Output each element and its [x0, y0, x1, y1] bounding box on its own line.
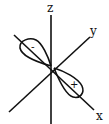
- negative-lobe: [20, 39, 51, 66]
- negative-sign: -: [31, 41, 35, 52]
- p-orbital-diagram: z y x - +: [0, 0, 109, 124]
- y-axis: [9, 37, 90, 112]
- x-axis: [14, 35, 94, 110]
- positive-sign: +: [70, 79, 78, 90]
- positive-lobe: [54, 68, 83, 97]
- y-axis-label: y: [89, 24, 97, 38]
- z-axis-label: z: [47, 1, 53, 15]
- x-axis-label: x: [96, 109, 103, 123]
